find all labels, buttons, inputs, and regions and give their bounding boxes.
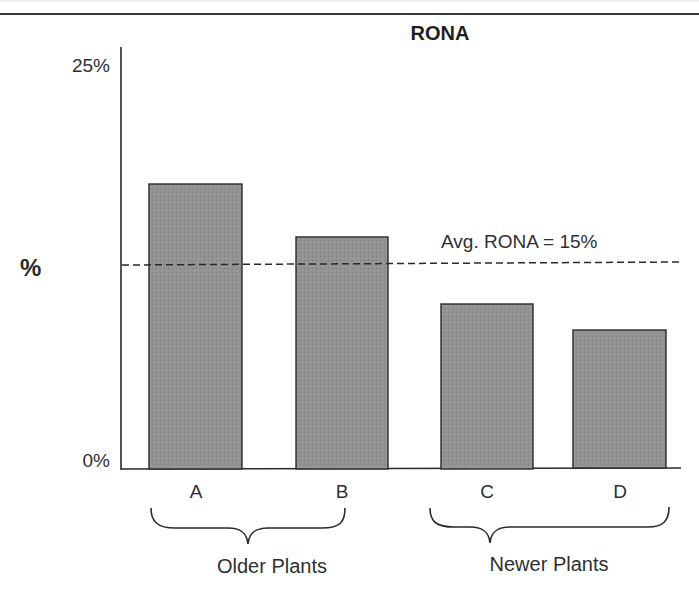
bar-chart	[0, 0, 699, 604]
x-category-c: C	[467, 481, 507, 503]
brace-older-plants	[151, 508, 345, 544]
bar-b	[296, 237, 388, 469]
average-line-label: Avg. RONA = 15%	[441, 231, 597, 253]
bar-c	[441, 304, 533, 469]
group-label-older-plants: Older Plants	[172, 555, 372, 578]
group-label-newer-plants: Newer Plants	[449, 553, 649, 576]
brace-newer-plants	[430, 507, 669, 543]
bar-d	[573, 330, 666, 468]
bar-a	[149, 184, 242, 469]
x-category-d: D	[600, 481, 640, 503]
x-category-b: B	[322, 481, 362, 503]
x-category-a: A	[176, 481, 216, 503]
